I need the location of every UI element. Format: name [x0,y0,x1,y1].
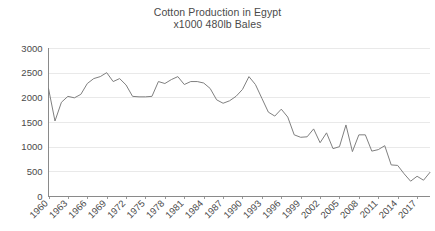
x-tick-label: 2002 [299,198,322,221]
y-tick-label: 2000 [21,92,42,103]
x-tick-label: 1960 [27,198,50,221]
x-tick-label: 2008 [338,198,361,221]
x-tick-label: 1984 [182,198,205,221]
x-tick-label: 1999 [279,198,302,221]
x-tick-label: 1963 [47,198,70,221]
x-tick-label: 1987 [202,198,225,221]
x-tick-labels-group: 1960196319661969197219751978198119841987… [27,198,418,221]
x-tick-label: 1981 [163,198,186,221]
x-tick-label: 1972 [105,198,128,221]
y-tick-labels-group: 050010001500200025003000 [21,43,42,202]
x-tick-label: 1966 [66,198,89,221]
gridlines-group [49,49,431,197]
x-tick-label: 1993 [241,198,264,221]
line-chart-plot: 050010001500200025003000 196019631966196… [0,0,435,231]
x-tick-label: 1990 [221,198,244,221]
x-tick-label: 2014 [376,198,399,221]
y-tick-label: 3000 [21,43,42,54]
x-tick-marks [50,197,418,199]
y-tick-label: 500 [27,166,43,177]
x-tick-label: 2011 [357,198,379,220]
x-tick-label: 1996 [260,198,283,221]
series-line-cotton-production [49,73,431,182]
y-tick-label: 1000 [21,141,42,152]
x-tick-label: 1969 [85,198,108,221]
chart-container: Cotton Production in Egypt x1000 480lb B… [0,0,435,231]
y-tick-label: 1500 [21,117,42,128]
x-tick-label: 2005 [318,198,341,221]
x-tick-label: 1975 [124,198,147,221]
x-tick-label: 1978 [144,198,167,221]
x-tick-label: 2017 [396,198,419,221]
y-tick-label: 2500 [21,67,42,78]
